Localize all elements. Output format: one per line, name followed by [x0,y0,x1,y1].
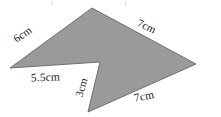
polygon-shape [0,0,221,117]
arrowhead-polygon-path [10,8,196,112]
geometry-figure: 6cm 5.5cm 3cm 7cm 7cm [0,0,221,117]
dimension-label-lower-left: 5.5cm [31,71,60,84]
